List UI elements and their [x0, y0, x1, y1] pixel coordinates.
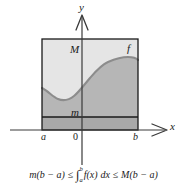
- integral-upper-limit: b: [80, 166, 83, 173]
- formula-lhs-factor: (b − a): [36, 169, 64, 180]
- upper-bound-label: M: [70, 44, 79, 55]
- x-axis-label: x: [170, 121, 175, 132]
- inequality-formula: m(b − a) ≤ ∫baf(x) dx ≤ M(b − a): [0, 166, 187, 182]
- formula-differential: dx: [100, 169, 109, 180]
- lower-bound-label: m: [71, 107, 79, 118]
- plot-canvas: [0, 0, 187, 189]
- origin-label: 0: [73, 132, 78, 142]
- formula-rhs-factor: (b − a): [129, 169, 157, 180]
- right-endpoint-label: b: [133, 132, 138, 142]
- y-axis-label: y: [79, 2, 84, 13]
- lower-bound-band: [42, 117, 138, 130]
- integral-lower-limit: a: [80, 177, 83, 184]
- formula-integrand: f(x): [84, 169, 98, 180]
- function-label: f: [127, 43, 130, 54]
- left-endpoint-label: a: [41, 132, 46, 142]
- integral-limits: ba: [80, 169, 83, 182]
- integral-bounds-figure: y x M m f a 0 b m(b − a) ≤ ∫baf(x) dx ≤ …: [0, 0, 187, 189]
